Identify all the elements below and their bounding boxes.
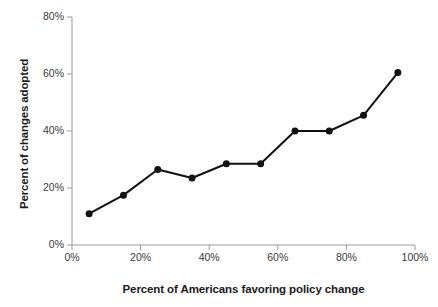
- axis-tick-marks: [67, 17, 415, 250]
- data-series-markers: [86, 69, 402, 217]
- axis-lines: [72, 17, 415, 245]
- data-point: [223, 160, 230, 167]
- plot-area: [0, 0, 438, 307]
- data-series-line: [89, 73, 398, 214]
- data-point: [326, 128, 333, 135]
- data-point: [154, 166, 161, 173]
- data-point: [120, 192, 127, 199]
- data-point: [86, 210, 93, 217]
- data-point: [394, 69, 401, 76]
- data-point: [257, 160, 264, 167]
- data-point: [189, 175, 196, 182]
- data-point: [360, 112, 367, 119]
- chart-figure: Percent of changes adopted Percent of Am…: [0, 0, 438, 307]
- data-point: [291, 128, 298, 135]
